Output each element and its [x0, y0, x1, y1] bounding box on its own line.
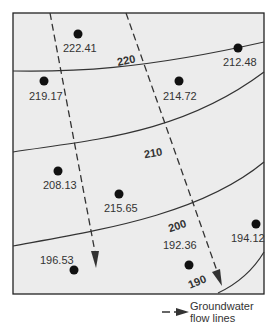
- legend-flow-line-icon: [162, 308, 189, 316]
- well-label: 219.17: [29, 90, 63, 102]
- well-point: [115, 190, 124, 199]
- legend-label-line1: Groundwater: [190, 300, 254, 312]
- well-point: [252, 220, 261, 229]
- well-label: 192.36: [163, 239, 197, 251]
- well-point: [54, 167, 63, 176]
- well-label: 194.12: [231, 232, 265, 244]
- well-label: 222.41: [63, 42, 97, 54]
- groundwater-contour-map: 220 210 200 190 222.41 212.48 219.17 214…: [0, 0, 277, 329]
- well-point: [74, 30, 83, 39]
- well-point: [70, 266, 79, 275]
- well-point: [234, 44, 243, 53]
- well-point: [40, 77, 49, 86]
- well-label: 215.65: [104, 202, 138, 214]
- legend: Groundwater flow lines: [190, 300, 254, 324]
- well-label: 214.72: [163, 90, 197, 102]
- well-point: [175, 77, 184, 86]
- well-label: 212.48: [223, 56, 257, 68]
- legend-label-line2: flow lines: [190, 312, 254, 324]
- well-label: 208.13: [43, 179, 77, 191]
- well-label: 196.53: [40, 254, 74, 266]
- well-point: [185, 261, 194, 270]
